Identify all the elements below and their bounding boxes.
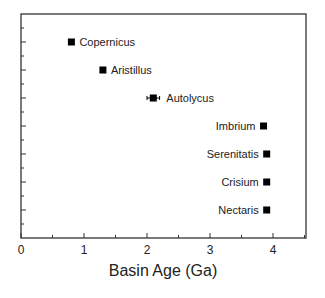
x-tick-label: 4 — [270, 243, 277, 257]
point-label: Copernicus — [79, 36, 135, 48]
square-marker — [260, 123, 267, 130]
square-marker — [263, 151, 270, 158]
point-label: Serenitatis — [207, 148, 259, 160]
point-label: Imbrium — [216, 120, 256, 132]
square-marker — [68, 39, 75, 46]
data-point-copernicus: Copernicus — [68, 36, 136, 48]
x-tick-label: 0 — [18, 243, 25, 257]
chart: 01234 CopernicusAristillusAutolycusImbri… — [0, 0, 325, 298]
data-points: CopernicusAristillusAutolycusImbriumSere… — [68, 36, 270, 216]
point-label: Autolycus — [166, 92, 214, 104]
square-marker — [263, 179, 270, 186]
data-point-aristillus: Aristillus — [99, 64, 152, 76]
x-tick-label: 2 — [144, 243, 151, 257]
point-label: Crisium — [221, 176, 258, 188]
point-label: Nectaris — [218, 204, 259, 216]
point-label: Aristillus — [111, 64, 152, 76]
square-marker — [263, 207, 270, 214]
square-marker — [99, 67, 106, 74]
x-tick-label: 3 — [207, 243, 214, 257]
x-axis-title: Basin Age (Ga) — [109, 262, 218, 279]
data-point-autolycus: Autolycus — [147, 92, 214, 104]
data-point-imbrium: Imbrium — [216, 120, 267, 132]
x-tick-label: 1 — [81, 243, 88, 257]
plot-area: 01234 — [18, 14, 306, 257]
square-marker — [150, 95, 157, 102]
data-point-nectaris: Nectaris — [218, 204, 270, 216]
data-point-crisium: Crisium — [221, 176, 270, 188]
data-point-serenitatis: Serenitatis — [207, 148, 270, 160]
